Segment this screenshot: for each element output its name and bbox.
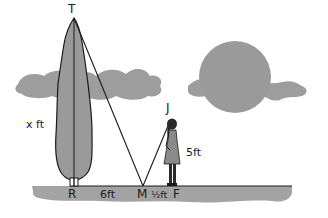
tree: [56, 18, 92, 186]
label-tree-height: x ft: [26, 118, 45, 131]
label-J: J: [165, 101, 170, 115]
label-girl-height: 5ft: [186, 146, 202, 159]
label-M: M: [137, 187, 147, 201]
label-mirror-to-girl: ½ft: [151, 189, 167, 200]
label-T: T: [67, 2, 76, 16]
label-tree-to-mirror: 6ft: [100, 188, 116, 201]
mirror-height-diagram: T J R M F x ft 6ft ½ft 5ft: [0, 0, 328, 218]
label-R: R: [68, 187, 76, 201]
label-F: F: [173, 187, 180, 201]
sun: [199, 41, 271, 113]
